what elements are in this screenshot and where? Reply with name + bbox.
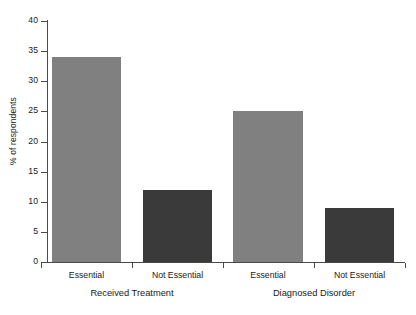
y-axis-tick-label-text: 35	[0, 46, 38, 55]
y-axis-tick	[41, 172, 48, 173]
y-axis-tick-label-text: 40	[0, 16, 38, 25]
y-axis-tick	[41, 51, 48, 52]
y-axis-tick-label: 10	[0, 197, 38, 207]
y-axis-tick	[41, 142, 48, 143]
x-axis-category-label: Not Essential	[305, 270, 415, 280]
y-axis-tick-label-text: 0	[0, 257, 38, 266]
x-axis-group-label: Received Treatment	[62, 288, 202, 299]
y-axis-tick	[41, 111, 48, 112]
x-axis-tick	[41, 263, 42, 268]
bar	[143, 190, 212, 262]
y-axis-tick-label-text: 5	[0, 227, 38, 236]
y-axis-tick-label: 30	[0, 76, 38, 86]
x-axis-tick	[314, 263, 315, 268]
y-axis-tick-label: 25	[0, 106, 38, 116]
y-axis-tick-label: 15	[0, 167, 38, 177]
x-axis-tick	[223, 263, 224, 268]
bar	[325, 208, 394, 262]
bar	[52, 57, 121, 262]
y-axis-tick	[41, 81, 48, 82]
y-axis-tick	[41, 202, 48, 203]
y-axis-tick-label-text: 10	[0, 197, 38, 206]
y-axis-tick-label-text: 15	[0, 167, 38, 176]
y-axis-tick-label: 0	[0, 257, 38, 267]
x-axis-group-label: Diagnosed Disorder	[244, 288, 384, 299]
y-axis-tick-label: 40	[0, 16, 38, 26]
y-axis-tick-label-text: 30	[0, 76, 38, 85]
y-axis-tick-label: 20	[0, 137, 38, 147]
y-axis-tick-label: 5	[0, 227, 38, 237]
bar-chart: % of respondents 0510152025303540 Essent…	[0, 0, 416, 315]
y-axis-tick	[41, 21, 48, 22]
x-axis-tick	[405, 263, 406, 268]
y-axis-tick-label-text: 25	[0, 106, 38, 115]
y-axis-tick-label: 35	[0, 46, 38, 56]
x-axis-tick	[132, 263, 133, 268]
bar	[233, 111, 303, 262]
y-axis-tick	[41, 232, 48, 233]
y-axis-tick-label-text: 20	[0, 137, 38, 146]
